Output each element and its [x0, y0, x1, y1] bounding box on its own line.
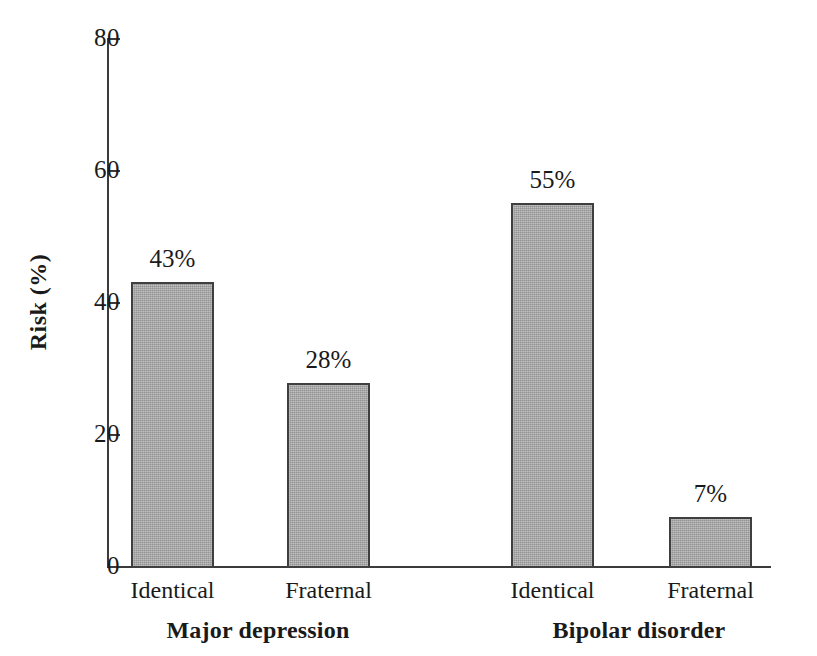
bar-value-label: 55% — [511, 167, 594, 192]
bar-bipolar-disorder-fraternal[interactable] — [669, 517, 752, 568]
bar-major-depression-identical[interactable] — [131, 282, 214, 568]
bar-value-label: 43% — [131, 246, 214, 271]
bar-major-depression-fraternal[interactable] — [287, 383, 370, 568]
y-axis-title: Risk (%) — [25, 254, 52, 351]
y-tick-label-40: 40 — [58, 289, 120, 314]
x-category-label: Fraternal — [644, 578, 777, 602]
bar-value-label: 28% — [287, 347, 370, 372]
bar-bipolar-disorder-identical[interactable] — [511, 203, 594, 568]
y-tick-label-60: 60 — [58, 157, 120, 182]
bar-chart: Risk (%) 80 60 40 20 0 43% Identical 28%… — [0, 0, 817, 656]
y-tick-label-20: 20 — [58, 421, 120, 446]
x-category-label: Fraternal — [262, 578, 395, 602]
x-category-label: Identical — [106, 578, 239, 602]
x-category-label: Identical — [486, 578, 619, 602]
group-label-bipolar-disorder: Bipolar disorder — [509, 618, 769, 642]
bar-value-label: 7% — [669, 481, 752, 506]
y-tick-label-0: 0 — [58, 553, 120, 578]
group-label-major-depression: Major depression — [128, 618, 388, 642]
y-tick-label-80: 80 — [58, 25, 120, 50]
